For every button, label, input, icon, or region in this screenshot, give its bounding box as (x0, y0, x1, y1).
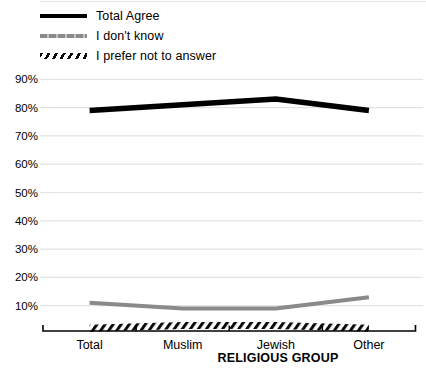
svg-text:Other: Other (353, 338, 384, 352)
svg-text:80%: 80% (15, 102, 38, 114)
svg-text:40%: 40% (15, 215, 38, 227)
svg-text:10%: 10% (15, 300, 38, 312)
line-chart: 90%80%70%60%50%40%30%20%10%TotalMuslimJe… (0, 0, 426, 372)
svg-text:30%: 30% (15, 243, 38, 255)
svg-text:20%: 20% (15, 271, 38, 283)
svg-text:50%: 50% (15, 187, 38, 199)
svg-text:70%: 70% (15, 130, 38, 142)
x-axis-title: RELIGIOUS GROUP (217, 351, 338, 365)
svg-text:60%: 60% (15, 158, 38, 170)
svg-text:Total: Total (76, 338, 102, 352)
svg-text:Jewish: Jewish (257, 338, 295, 352)
chart-figure: Total Agree I don't know I prefer not to… (0, 0, 426, 372)
svg-text:Muslim: Muslim (163, 338, 203, 352)
svg-text:90%: 90% (15, 73, 38, 85)
